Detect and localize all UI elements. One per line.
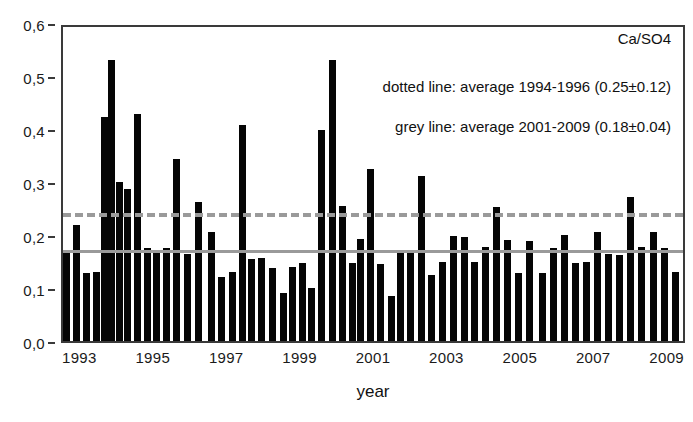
reference-line-average-2001-2009 [63, 250, 683, 253]
bar [357, 239, 364, 341]
bar [539, 273, 546, 341]
bar [163, 248, 170, 341]
bar [308, 288, 315, 341]
bar [672, 272, 679, 341]
bar [289, 267, 296, 341]
bar [461, 237, 468, 341]
x-axis: 199319951997199920012003200520072009 [61, 349, 685, 373]
plot-area [61, 25, 685, 343]
x-axis-tick-label: 1995 [135, 349, 170, 366]
bar [329, 60, 336, 341]
bar [397, 252, 404, 341]
bar [258, 258, 265, 341]
y-axis-tick-mark [48, 130, 55, 132]
bar [116, 182, 123, 341]
y-axis-tick-label: 0,1 [23, 282, 45, 299]
x-axis-tick-label: 2009 [649, 349, 684, 366]
bar [239, 125, 246, 341]
bar [280, 293, 287, 341]
y-axis-tick-mark [48, 289, 55, 291]
bar [504, 240, 511, 341]
bar [605, 254, 612, 341]
bar [418, 176, 425, 341]
bar [299, 263, 306, 341]
x-axis-tick-label: 1997 [209, 349, 244, 366]
bar [349, 263, 356, 341]
bar [229, 272, 236, 341]
x-axis-tick-label: 1993 [62, 349, 97, 366]
bar [134, 114, 141, 341]
bar [583, 262, 590, 342]
bar [627, 197, 634, 341]
y-axis-tick-mark [48, 236, 55, 238]
bar [184, 254, 191, 341]
bar [108, 60, 115, 341]
x-axis-title: year [61, 382, 685, 402]
y-axis-tick-mark [48, 77, 55, 79]
y-axis-tick-mark [48, 342, 55, 344]
annotation-dotted-line: dotted line: average 1994-1996 (0.25±0.1… [383, 78, 671, 95]
bar [339, 206, 346, 341]
x-axis-tick-label: 1999 [282, 349, 317, 366]
bar [63, 252, 70, 341]
bar [153, 250, 160, 341]
y-axis-tick-label: 0,5 [23, 70, 45, 87]
bar [93, 272, 100, 341]
bar [526, 241, 533, 341]
bar [269, 268, 276, 341]
bar [144, 248, 151, 341]
bar [101, 117, 108, 341]
bar [367, 169, 374, 341]
reference-line-average-1994-1996 [63, 213, 683, 217]
bar [73, 225, 80, 341]
bar [377, 264, 384, 341]
bar [439, 262, 446, 342]
bar [482, 247, 489, 341]
bar [515, 273, 522, 341]
y-axis-tick-mark [48, 24, 55, 26]
series-label: Ca/SO4 [618, 30, 671, 47]
chart-figure: 0,00,10,20,30,40,50,6 199319951997199920… [0, 0, 693, 422]
y-axis: 0,00,10,20,30,40,50,6 [0, 25, 55, 343]
y-axis-tick-mark [48, 183, 55, 185]
bar [638, 247, 645, 341]
bars-layer [63, 27, 683, 341]
x-axis-tick-label: 2001 [356, 349, 391, 366]
bar [428, 275, 435, 341]
x-axis-tick-label: 2007 [576, 349, 611, 366]
bar [407, 251, 414, 341]
bar [218, 277, 225, 341]
bar [83, 273, 90, 341]
bar [550, 248, 557, 341]
bar [195, 202, 202, 341]
bar [661, 248, 668, 341]
x-axis-tick-label: 2003 [429, 349, 464, 366]
y-axis-tick-label: 0,6 [23, 17, 45, 34]
x-axis-tick-label: 2005 [503, 349, 538, 366]
y-axis-tick-label: 0,2 [23, 229, 45, 246]
annotation-grey-line: grey line: average 2001-2009 (0.18±0.04) [395, 118, 671, 135]
bar [471, 262, 478, 342]
bar [388, 296, 395, 341]
y-axis-tick-label: 0,4 [23, 123, 45, 140]
bar [318, 130, 325, 341]
bar [616, 255, 623, 341]
bar [248, 259, 255, 341]
bar [493, 207, 500, 341]
bar [572, 263, 579, 341]
y-axis-tick-label: 0,0 [23, 335, 45, 352]
y-axis-tick-label: 0,3 [23, 176, 45, 193]
